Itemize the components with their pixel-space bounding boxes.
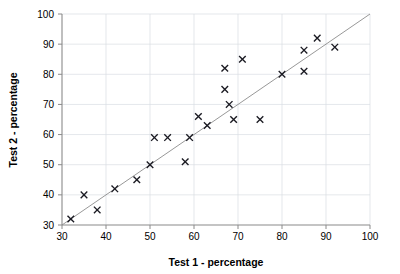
- y-axis-title: Test 2 - percentage: [7, 72, 19, 167]
- y-tick-label: 80: [43, 69, 55, 80]
- y-tick-label: 40: [43, 189, 55, 200]
- x-tick-label: 50: [144, 231, 156, 242]
- y-tick-label: 50: [43, 159, 55, 170]
- y-tick-label: 70: [43, 99, 55, 110]
- y-tick-label: 100: [37, 9, 54, 20]
- scatter-plot-figure: 30405060708090100 30405060708090100 Test…: [0, 0, 400, 274]
- x-axis-title: Test 1 - percentage: [169, 256, 264, 268]
- y-tick-label: 90: [43, 39, 55, 50]
- x-tick-label: 30: [56, 231, 68, 242]
- y-tick-label: 60: [43, 129, 55, 140]
- x-tick-label: 70: [232, 231, 244, 242]
- x-tick-label: 60: [188, 231, 200, 242]
- x-tick-label: 100: [362, 231, 379, 242]
- x-tick-label: 90: [320, 231, 332, 242]
- x-tick-label: 40: [100, 231, 112, 242]
- x-tick-label: 80: [276, 231, 288, 242]
- y-tick-label: 30: [43, 220, 55, 231]
